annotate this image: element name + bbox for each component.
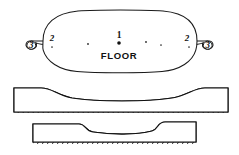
floor-dot [145,41,147,43]
floor-dot [51,46,53,48]
right-body-label: 2 [184,33,190,43]
left-handle-loop-label: 3 [28,40,34,50]
figure-canvas: 3 3 2 2 1 [0,0,239,155]
right-handle-loop-label: 3 [204,40,210,50]
upper-section-outline-overlay [14,88,228,112]
lower-section-outline-overlay [33,122,196,142]
left-body-label-group: 2 [49,33,55,43]
right-body-label-group: 2 [184,33,190,43]
vessel-body-outline [43,10,197,73]
center-label: 1 [117,30,122,40]
plan-view-group: 3 3 2 2 1 [26,10,213,73]
floor-dot [188,46,190,48]
floor-dot [160,44,162,46]
floor-label: FLOOR [101,50,138,61]
upper-cross-section [0,82,239,118]
floor-dot [87,43,89,45]
patent-figure: 3 3 2 2 1 [0,0,239,155]
left-body-label: 2 [49,33,55,43]
center-leader-dot [117,41,121,45]
lower-cross-section [10,112,211,148]
center-reference: 1 [117,30,122,40]
